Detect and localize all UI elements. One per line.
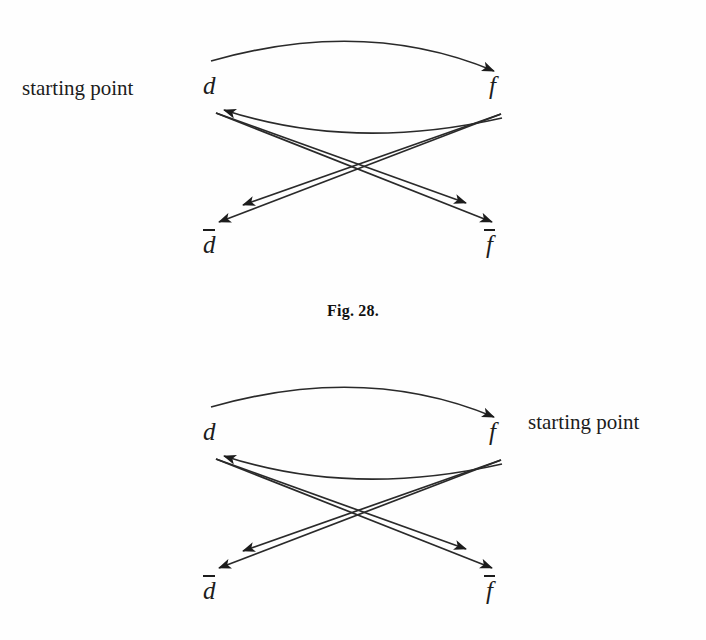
starting-point-annotation: starting point [22, 78, 133, 99]
edge-d-to-fbar-line-tip [216, 459, 492, 568]
diagram-2-graph [0, 350, 706, 640]
figure-diagram-1: starting point d f d f [0, 0, 706, 300]
node-label-d-bar: d [203, 575, 216, 603]
overline-bar-d [203, 229, 215, 231]
figure-caption: Fig. 28. [0, 302, 706, 320]
document-page: starting point d f d f Fig. 28. [0, 0, 706, 640]
edge-d-to-f-arc [211, 387, 494, 417]
node-label-f-bar: f [484, 575, 495, 603]
node-label-f: f [489, 73, 496, 98]
diagram-1-graph [0, 0, 706, 300]
node-label-d-bar: d [203, 229, 216, 257]
edge-d-to-fbar-line-tip [216, 113, 492, 222]
edge-f-to-dbar-line [243, 460, 501, 551]
edge-d-to-f-arc [211, 41, 494, 71]
overline-bar-f [484, 575, 495, 577]
edge-d-to-fbar-line [216, 113, 466, 203]
edge-d-to-fbar-line [216, 459, 466, 549]
edge-f-to-dbar-line [243, 114, 501, 205]
node-label-d: d [203, 73, 216, 98]
node-label-f-bar: f [484, 229, 495, 257]
node-label-d: d [203, 419, 216, 444]
figure-diagram-2: starting point d f d f [0, 350, 706, 640]
overline-bar-d [203, 575, 215, 577]
overline-bar-f [484, 229, 495, 231]
node-label-f: f [489, 419, 496, 444]
starting-point-annotation: starting point [528, 412, 639, 433]
